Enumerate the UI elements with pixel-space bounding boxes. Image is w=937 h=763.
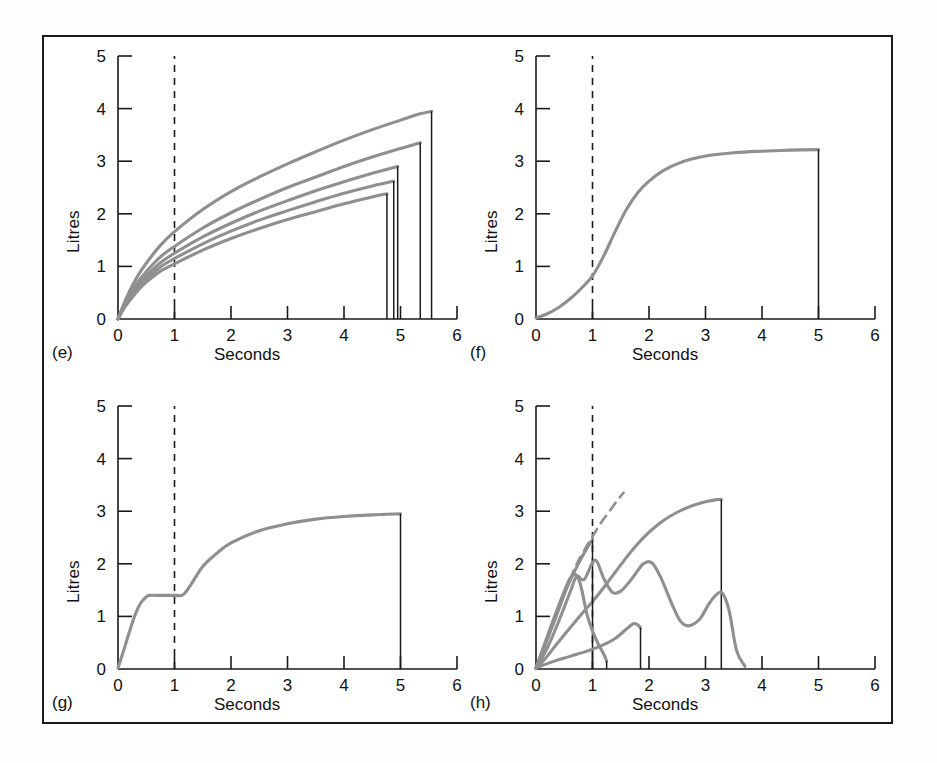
y-tick-label: 4 <box>97 450 106 469</box>
x-tick-label: 3 <box>701 676 710 695</box>
y-tick-label: 4 <box>515 450 524 469</box>
x-tick-label: 4 <box>339 326 348 345</box>
y-tick-label: 1 <box>97 607 106 626</box>
x-tick-label: 1 <box>588 676 597 695</box>
y-tick-label: 3 <box>515 152 524 171</box>
panel-f-label: (f) <box>470 343 486 363</box>
y-tick-label: 0 <box>515 660 524 679</box>
x-tick-label: 1 <box>588 326 597 345</box>
x-tick-label: 6 <box>870 676 879 695</box>
y-tick-label: 0 <box>515 310 524 329</box>
x-tick-label: 0 <box>113 326 122 345</box>
y-tick-label: 5 <box>97 47 106 66</box>
y-tick-label: 3 <box>515 502 524 521</box>
panel-g-label: (g) <box>52 693 73 713</box>
panel-e-xlabel: Seconds <box>214 345 280 365</box>
x-tick-label: 0 <box>113 676 122 695</box>
panel-g-xlabel: Seconds <box>214 695 280 715</box>
x-tick-label: 2 <box>644 676 653 695</box>
y-tick-label: 2 <box>515 205 524 224</box>
panel-f-plot: 0123456012345 <box>470 38 895 382</box>
panel-f: 0123456012345 Litres Seconds (f) <box>470 38 895 382</box>
panel-h: 0123456012345 Litres Seconds (h) <box>470 388 895 732</box>
y-tick-label: 5 <box>97 397 106 416</box>
x-tick-label: 1 <box>170 326 179 345</box>
x-tick-label: 0 <box>531 326 540 345</box>
panel-e: 0123456012345 Litres Seconds (e) <box>52 38 477 382</box>
y-tick-label: 0 <box>97 660 106 679</box>
y-tick-label: 1 <box>515 257 524 276</box>
panel-g-ylabel: Litres <box>64 560 84 603</box>
curve-step-plateau-curve <box>118 514 401 668</box>
x-tick-label: 6 <box>452 676 461 695</box>
panel-h-plot: 0123456012345 <box>470 388 895 732</box>
panel-h-xlabel: Seconds <box>632 695 698 715</box>
curve-curve-2 <box>118 143 420 319</box>
x-tick-label: 4 <box>339 676 348 695</box>
x-tick-label: 2 <box>226 676 235 695</box>
x-tick-label: 5 <box>814 676 823 695</box>
y-tick-label: 2 <box>97 555 106 574</box>
y-tick-label: 3 <box>97 152 106 171</box>
y-tick-label: 5 <box>515 397 524 416</box>
panel-e-ylabel: Litres <box>64 210 84 253</box>
panel-e-plot: 0123456012345 <box>52 38 477 382</box>
x-tick-label: 6 <box>870 326 879 345</box>
x-tick-label: 5 <box>814 326 823 345</box>
panel-h-ylabel: Litres <box>482 560 502 603</box>
figure-root: 0123456012345 Litres Seconds (e) 0123456… <box>0 0 937 763</box>
panel-e-label: (e) <box>52 343 73 363</box>
y-tick-label: 4 <box>97 100 106 119</box>
x-tick-label: 2 <box>226 326 235 345</box>
x-tick-label: 2 <box>644 326 653 345</box>
x-tick-label: 5 <box>396 676 405 695</box>
panel-f-xlabel: Seconds <box>632 345 698 365</box>
x-tick-label: 4 <box>757 676 766 695</box>
y-tick-label: 0 <box>97 310 106 329</box>
x-tick-label: 3 <box>283 326 292 345</box>
panel-g: 0123456012345 Litres Seconds (g) <box>52 388 477 732</box>
panel-f-ylabel: Litres <box>482 210 502 253</box>
x-tick-label: 5 <box>396 326 405 345</box>
panel-g-plot: 0123456012345 <box>52 388 477 732</box>
panel-h-label: (h) <box>470 693 491 713</box>
y-tick-label: 3 <box>97 502 106 521</box>
y-tick-label: 4 <box>515 100 524 119</box>
y-tick-label: 2 <box>515 555 524 574</box>
x-tick-label: 6 <box>452 326 461 345</box>
curve-sigmoid-curve <box>536 150 819 318</box>
x-tick-label: 3 <box>701 326 710 345</box>
x-tick-label: 3 <box>283 676 292 695</box>
y-tick-label: 2 <box>97 205 106 224</box>
x-tick-label: 4 <box>757 326 766 345</box>
x-tick-label: 0 <box>531 676 540 695</box>
x-tick-label: 1 <box>170 676 179 695</box>
y-tick-label: 1 <box>97 257 106 276</box>
y-tick-label: 1 <box>515 607 524 626</box>
y-tick-label: 5 <box>515 47 524 66</box>
